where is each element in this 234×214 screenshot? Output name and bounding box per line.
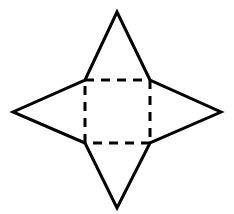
figure-background	[0, 0, 234, 214]
geometry-figure	[0, 0, 234, 214]
